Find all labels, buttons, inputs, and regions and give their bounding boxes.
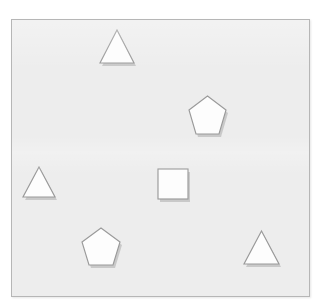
scene-root bbox=[0, 0, 323, 308]
shape-triangle-bottom-right[interactable] bbox=[243, 229, 282, 267]
shape-canvas[interactable] bbox=[11, 19, 310, 297]
shape-triangle-left[interactable] bbox=[21, 165, 59, 200]
shape-pentagon-upper-right[interactable] bbox=[187, 94, 228, 138]
shape-square-center[interactable] bbox=[156, 167, 192, 203]
shape-pentagon-bottom-left[interactable] bbox=[80, 226, 122, 269]
shape-triangle-top[interactable] bbox=[97, 28, 137, 66]
